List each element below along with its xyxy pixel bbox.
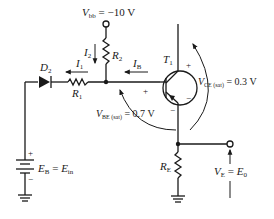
eb-battery: [16, 160, 34, 173]
eb-ground-icon: [18, 195, 32, 201]
eb-label: EB = Ein: [37, 162, 74, 176]
vce-plus: +: [186, 60, 191, 70]
i2-label: I2: [83, 46, 92, 60]
re-ground-icon: [171, 196, 185, 202]
vbb-label: Vbb = −10 V: [82, 6, 135, 20]
circuit-diagram: Vbb = −10 V R2 I2 D2 R1 I1 IB: [0, 0, 274, 219]
eb-minus: −: [28, 174, 33, 184]
i1-label: I1: [75, 57, 84, 71]
ve-output-terminal: [227, 141, 233, 147]
ve-label: VE = E0: [214, 165, 247, 179]
re-label: RE: [159, 160, 171, 174]
eb-plus: +: [28, 148, 33, 158]
t1-label: T1: [163, 53, 173, 67]
vbe-minus: −: [170, 105, 175, 115]
d2-diode: [39, 76, 51, 88]
t1-transistor: [160, 71, 197, 105]
vbe-plus: +: [143, 86, 148, 96]
r2-label: R2: [111, 49, 123, 63]
r2-resistor: [103, 38, 109, 64]
vbb-terminal: [103, 21, 109, 27]
d2-label: D2: [39, 61, 52, 75]
r1-label: R1: [71, 87, 83, 101]
r1-resistor: [68, 79, 88, 85]
re-resistor: [175, 152, 181, 178]
vce-minus: −: [186, 93, 191, 103]
vbe-label: VBE (sat) = 0.7 V: [96, 108, 155, 121]
ib-label: IB: [132, 57, 142, 71]
